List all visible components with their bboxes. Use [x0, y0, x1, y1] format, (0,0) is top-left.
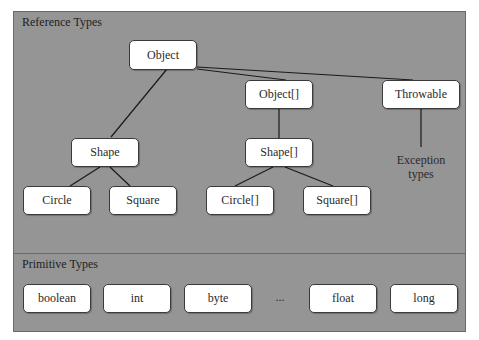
primitive-ellipsis: ... — [264, 290, 296, 304]
primitive-float-label: float — [332, 291, 354, 306]
reference-types-panel: Reference Types — [13, 11, 466, 254]
node-shape: Shape — [71, 138, 139, 167]
node-exception-types-label: Exception types — [397, 153, 446, 181]
node-square-label: Square — [126, 193, 159, 208]
primitive-byte-label: byte — [208, 291, 229, 306]
primitive-boolean: boolean — [23, 284, 91, 313]
primitive-long: long — [390, 284, 458, 313]
node-object-array: Object[] — [245, 80, 313, 109]
node-shape-array: Shape[] — [245, 138, 313, 167]
node-exception-types: Exception types — [386, 153, 456, 181]
node-object-label: Object — [147, 48, 179, 63]
node-throwable-label: Throwable — [395, 87, 447, 102]
primitive-int: int — [103, 284, 171, 313]
node-circle: Circle — [23, 186, 91, 215]
node-circle-label: Circle — [42, 193, 71, 208]
node-circle-array: Circle[] — [206, 186, 274, 215]
primitive-long-label: long — [413, 291, 434, 306]
node-shape-label: Shape — [90, 145, 119, 160]
primitive-int-label: int — [131, 291, 144, 306]
primitive-byte: byte — [184, 284, 252, 313]
node-square: Square — [109, 186, 177, 215]
node-object: Object — [129, 40, 197, 70]
reference-types-title: Reference Types — [22, 15, 102, 30]
primitive-types-title: Primitive Types — [22, 257, 98, 272]
node-square-array-label: Square[] — [316, 193, 357, 208]
node-object-array-label: Object[] — [259, 87, 299, 102]
primitive-boolean-label: boolean — [38, 291, 76, 306]
node-square-array: Square[] — [303, 186, 371, 215]
node-throwable: Throwable — [382, 80, 460, 109]
node-circle-array-label: Circle[] — [221, 193, 258, 208]
primitive-ellipsis-label: ... — [276, 290, 285, 304]
node-shape-array-label: Shape[] — [260, 145, 297, 160]
primitive-float: float — [309, 284, 377, 313]
